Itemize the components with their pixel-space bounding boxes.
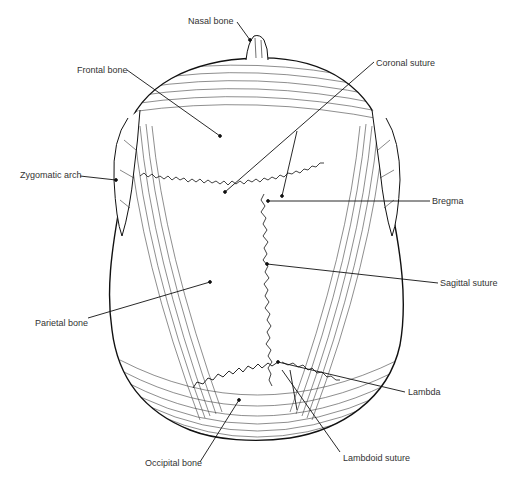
label-bregma: Bregma — [432, 196, 464, 206]
label-sagittal-suture: Sagittal suture — [440, 278, 498, 288]
skull-hatching — [120, 65, 398, 442]
label-occipital-bone: Occipital bone — [145, 458, 202, 468]
leader-lines — [80, 22, 438, 462]
label-coronal-suture: Coronal suture — [376, 58, 435, 68]
label-lambda: Lambda — [408, 387, 441, 397]
zygomatic-arch-left — [114, 110, 140, 236]
sagittal-suture-line — [261, 194, 272, 386]
label-lambdoid-suture: Lambdoid suture — [343, 453, 410, 463]
label-frontal-bone: Frontal bone — [77, 65, 128, 75]
coronal-suture-line — [140, 163, 324, 185]
skull-superior-view-diagram: Nasal bone Frontal bone Coronal suture Z… — [0, 0, 512, 484]
label-nasal-bone: Nasal bone — [188, 16, 234, 26]
label-parietal-bone: Parietal bone — [35, 318, 88, 328]
zygomatic-arch-right — [372, 110, 400, 236]
label-zygomatic-arch: Zygomatic arch — [20, 170, 82, 180]
